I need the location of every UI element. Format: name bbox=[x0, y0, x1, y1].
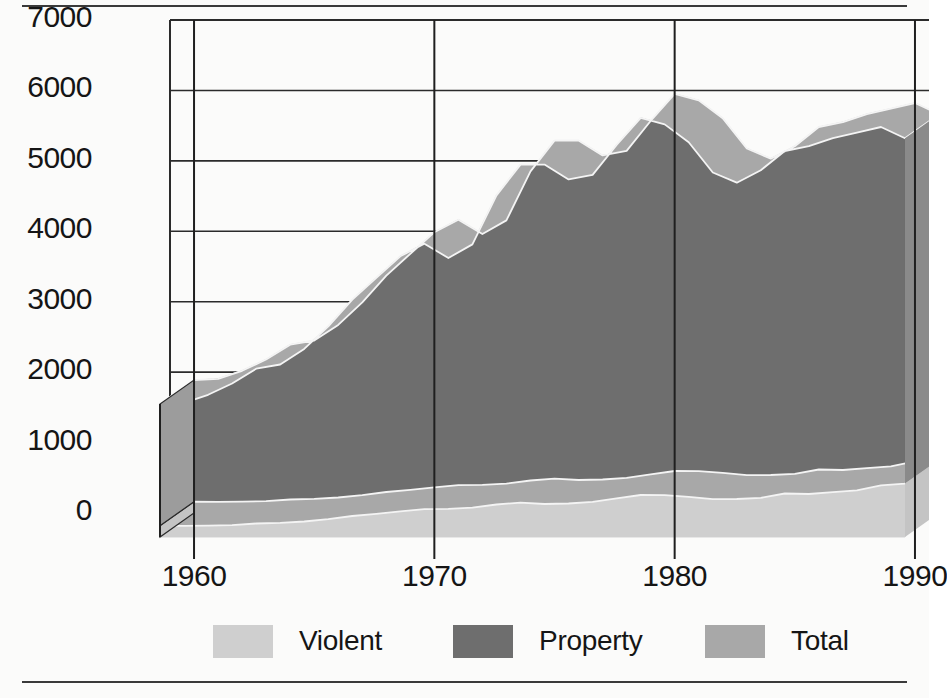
legend-label-violent: Violent bbox=[299, 627, 382, 655]
y-axis-ticks: 70006000500040003000200010000 bbox=[8, 0, 92, 600]
legend-label-property: Property bbox=[539, 627, 642, 655]
y-tick-label: 3000 bbox=[14, 284, 92, 314]
legend-item-total[interactable]: Total bbox=[705, 620, 849, 662]
legend-label-total: Total bbox=[791, 627, 849, 655]
legend-swatch-total bbox=[705, 625, 765, 658]
x-tick-label: 1980 bbox=[642, 561, 707, 591]
y-tick-label: 5000 bbox=[14, 143, 92, 173]
y-tick-label: 0 bbox=[14, 495, 92, 525]
legend-swatch-violent bbox=[213, 625, 273, 658]
x-tick-label: 1960 bbox=[162, 561, 227, 591]
left-face-property bbox=[160, 380, 194, 526]
y-tick-label: 2000 bbox=[14, 354, 92, 384]
x-tick-label: 1990 bbox=[883, 561, 947, 591]
area-property-front-top bbox=[160, 118, 905, 526]
legend-item-property[interactable]: Property bbox=[453, 620, 642, 662]
y-tick-label: 6000 bbox=[14, 72, 92, 102]
y-tick-label: 7000 bbox=[14, 2, 92, 32]
y-tick-label: 4000 bbox=[14, 213, 92, 243]
y-tick-label: 1000 bbox=[14, 425, 92, 455]
chart-legend: ViolentPropertyTotal bbox=[0, 620, 929, 662]
legend-item-violent[interactable]: Violent bbox=[213, 620, 382, 662]
right-face-property bbox=[905, 114, 929, 483]
legend-swatch-property bbox=[453, 625, 513, 658]
x-tick-label: 1970 bbox=[402, 561, 467, 591]
